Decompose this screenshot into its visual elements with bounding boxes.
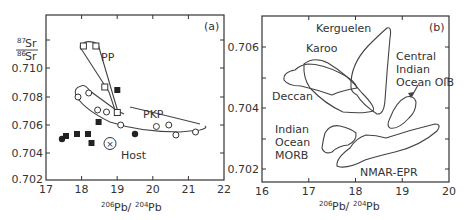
cio-label-2: Indian: [396, 63, 430, 76]
host-point: ×: [104, 138, 116, 150]
indian-ocean-morb-field: [322, 126, 356, 153]
iom-label-3: MORB: [275, 149, 308, 162]
host-label: Host: [121, 149, 147, 162]
x-tick-label: 17: [302, 185, 316, 198]
svg-text:Sr: Sr: [25, 50, 37, 63]
x-tick-label: 22: [217, 183, 231, 196]
kerguelen-field: [351, 28, 391, 114]
central-indian-ocean-oib-field: [388, 97, 416, 129]
x-tick-label: 20: [442, 185, 456, 198]
nmar-epr-label: NMAR-EPR: [360, 166, 418, 179]
cio-label-1: Central: [396, 50, 436, 63]
y-tick-label: 0.710: [12, 62, 44, 75]
x-tick-label: 20: [146, 183, 160, 196]
panel-a-label: (a): [204, 20, 219, 33]
x-tick-label: 21: [181, 183, 195, 196]
svg-text:Pb/: Pb/: [332, 200, 350, 213]
filled-circle-points: [59, 131, 138, 142]
panel-a-x-axis-label: 206 Pb/ 204 Pb: [101, 201, 162, 214]
x-tick-label: 18: [349, 185, 363, 198]
panel-b-x-ticks: 16 17 18 19 20: [255, 16, 456, 198]
x-tick-label: 19: [110, 183, 124, 196]
panel-b-x-axis-label: 206 Pb/ 204 Pb: [319, 200, 380, 213]
panel-a-x-ticks: 17 18 19 20 21 22: [39, 15, 231, 196]
y-tick-label: 0.706: [228, 41, 260, 54]
kerguelen-label: Kerguelen: [316, 22, 371, 35]
svg-text:206: 206: [101, 201, 115, 209]
x-tick-label: 19: [395, 185, 409, 198]
karoo-field: [304, 60, 374, 113]
panel-a-y-axis-label: 87 Sr 86 Sr: [16, 37, 38, 63]
cio-label-3: Ocean OIB: [396, 76, 454, 89]
x-tick-label: 18: [75, 183, 89, 196]
svg-text:206: 206: [319, 200, 333, 208]
svg-text:204: 204: [353, 200, 367, 208]
svg-text:Pb/: Pb/: [114, 201, 132, 214]
panel-b-label: (b): [429, 21, 445, 34]
y-tick-label: 0.708: [12, 91, 44, 104]
pkp-label: PKP: [143, 108, 164, 121]
y-tick-label: 0.704: [12, 147, 44, 160]
figure: 17 18 19 20 21 22 0.702 0.704 0.706 0.70…: [0, 0, 465, 220]
iom-label-2: Ocean: [275, 136, 310, 149]
filled-square-points: [63, 87, 120, 146]
svg-text:Sr: Sr: [25, 37, 37, 50]
pp-label: PP: [101, 51, 115, 64]
svg-text:×: ×: [106, 139, 114, 149]
y-tick-label: 0.706: [12, 119, 44, 132]
y-tick-label: 0.704: [228, 102, 260, 115]
pkp-points: [75, 90, 199, 138]
svg-text:Pb: Pb: [148, 201, 162, 214]
svg-text:204: 204: [135, 201, 149, 209]
y-tick-label: 0.702: [12, 173, 44, 186]
panel-a: 17 18 19 20 21 22 0.702 0.704 0.706 0.70…: [12, 15, 232, 214]
y-tick-label: 0.702: [228, 163, 260, 176]
x-tick-label: 16: [255, 185, 269, 198]
deccan-label: Deccan: [272, 90, 313, 103]
karoo-label: Karoo: [306, 42, 338, 55]
panel-b: 16 17 18 19 20 0.702 0.704 0.706 206 Pb/…: [228, 16, 457, 213]
svg-text:Pb: Pb: [366, 200, 380, 213]
iom-label-1: Indian: [275, 123, 309, 136]
